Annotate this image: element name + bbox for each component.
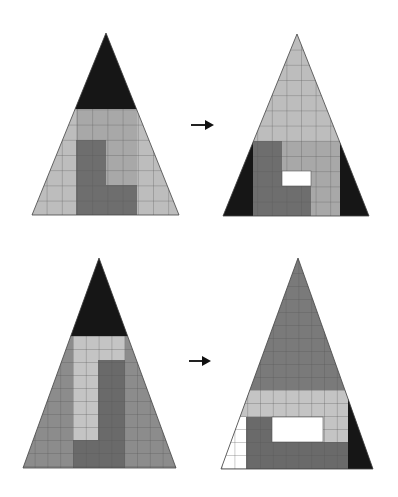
light-band-left [210, 390, 246, 417]
triangle-bottom-right [210, 250, 385, 475]
right-arrow-icon [189, 356, 211, 366]
triangle-top-left [20, 20, 200, 220]
white-gap [272, 417, 323, 442]
triangle-top-right [210, 20, 380, 221]
dissection-diagram [0, 0, 398, 497]
black-tip [15, 250, 185, 336]
triangle-bottom-left [15, 250, 185, 475]
black-left-wedge [210, 141, 253, 221]
black-right-wedge [340, 141, 380, 221]
white-gap [282, 171, 311, 186]
grid-lines [15, 330, 185, 475]
right-arrow-icon [191, 120, 214, 130]
black-tip [20, 20, 200, 109]
black-right-wedge [348, 390, 378, 475]
